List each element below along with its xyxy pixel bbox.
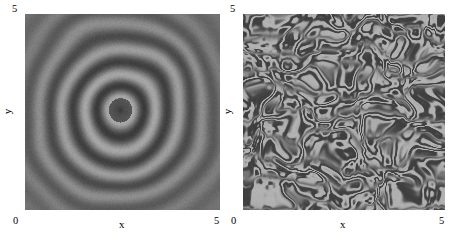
y-axis-label: y [2, 109, 13, 115]
x-axis-label: x [340, 219, 346, 230]
spiral-chaos-panel: 5 0 5 x y [228, 0, 455, 241]
spiral-chaos-heatmap [243, 14, 445, 210]
figure-container: 5 0 5 x y 5 0 5 x y [0, 0, 455, 241]
target-pattern-plot-area [25, 14, 220, 210]
x-axis-label: x [119, 219, 125, 230]
y-axis-min-tick-label: 0 [231, 216, 236, 227]
y-axis-max-tick-label: 5 [230, 4, 235, 15]
y-axis-label: y [222, 109, 233, 115]
x-axis-max-tick-label: 5 [439, 216, 444, 227]
y-axis-min-tick-label: 0 [13, 216, 18, 227]
y-axis-max-tick-label: 5 [12, 4, 17, 15]
target-pattern-heatmap [25, 14, 220, 210]
spiral-chaos-plot-area [243, 14, 445, 210]
x-axis-max-tick-label: 5 [214, 216, 219, 227]
target-pattern-panel: 5 0 5 x y [0, 0, 228, 241]
